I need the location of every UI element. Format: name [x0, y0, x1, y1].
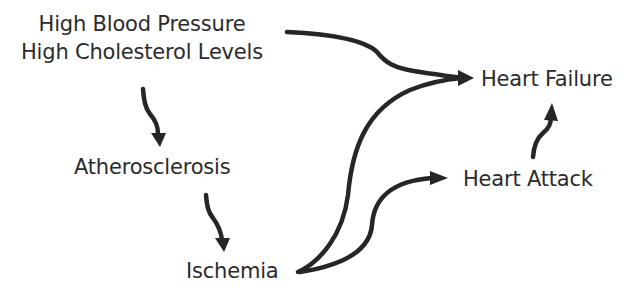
node-risk-factors: High Blood Pressure High Cholesterol Lev… [6, 10, 278, 66]
node-heart-attack: Heart Attack [463, 165, 593, 193]
arrow-heart-attack-to-heart-failure [533, 103, 558, 157]
arrow-atherosclerosis-to-ischemia [206, 195, 230, 252]
node-high-cholesterol-levels: High Cholesterol Levels [6, 38, 278, 66]
node-heart-failure: Heart Failure [481, 65, 613, 93]
node-high-blood-pressure: High Blood Pressure [6, 10, 278, 38]
diagram-canvas: High Blood Pressure High Cholesterol Lev… [0, 0, 641, 301]
node-ischemia: Ischemia [186, 257, 278, 285]
node-atherosclerosis: Atherosclerosis [74, 153, 230, 181]
arrow-risk-to-atherosclerosis [143, 89, 166, 147]
